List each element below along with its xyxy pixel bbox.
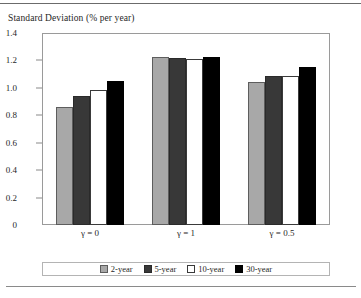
y-axis-tick-label: 0 — [0, 220, 17, 230]
y-axis-tick-mark — [36, 60, 42, 61]
legend-swatch-icon — [144, 265, 152, 273]
y-axis-tick-mark — [36, 115, 42, 116]
bar-30-year-γ=0[interactable] — [107, 81, 124, 225]
bar-10-year-γ=1[interactable] — [186, 59, 203, 225]
x-axis-category-label: γ = 0 — [42, 228, 138, 246]
bar-5-year-γ=0[interactable] — [73, 96, 90, 225]
bar-10-year-γ=0.5[interactable] — [282, 76, 299, 225]
legend-item-30-year[interactable]: 30-year — [235, 264, 272, 274]
legend-item-2-year[interactable]: 2-year — [100, 264, 133, 274]
x-axis-category-label: γ = 1 — [138, 228, 234, 246]
y-axis-tick-label: 0.2 — [0, 193, 17, 203]
bar-10-year-γ=0[interactable] — [90, 90, 107, 225]
y-axis-tick-label: 1.4 — [0, 28, 17, 38]
page-rule-bottom — [6, 286, 356, 287]
bar-5-year-γ=0.5[interactable] — [265, 76, 282, 225]
bar-group — [234, 33, 330, 225]
y-axis-tick-mark — [36, 170, 42, 171]
legend-item-10-year[interactable]: 10-year — [187, 264, 224, 274]
bar-2-year-γ=0[interactable] — [56, 107, 73, 225]
legend-item-5-year[interactable]: 5-year — [144, 264, 177, 274]
bar-2-year-γ=1[interactable] — [152, 57, 169, 225]
bar-groups — [42, 33, 330, 225]
chart-title: Standard Deviation (% per year) — [8, 13, 135, 23]
legend-label: 5-year — [155, 264, 177, 274]
legend-swatch-icon — [187, 265, 195, 273]
plot-area — [42, 33, 330, 225]
legend-label: 30-year — [246, 264, 272, 274]
legend-swatch-icon — [100, 265, 108, 273]
y-axis-tick-mark — [36, 142, 42, 143]
y-axis-tick-mark — [36, 87, 42, 88]
legend-label: 10-year — [198, 264, 224, 274]
y-axis-tick-mark — [36, 197, 42, 198]
bar-2-year-γ=0.5[interactable] — [248, 82, 265, 225]
bar-30-year-γ=1[interactable] — [203, 57, 220, 225]
y-axis-tick-label: 0.4 — [0, 165, 17, 175]
bar-group — [138, 33, 234, 225]
legend-swatch-icon — [235, 265, 243, 273]
y-axis-tick-label: 0.6 — [0, 138, 17, 148]
legend-label: 2-year — [111, 264, 133, 274]
y-axis-tick-label: 1.2 — [0, 55, 17, 65]
x-axis-category-label: γ = 0.5 — [234, 228, 330, 246]
y-axis-tick-label: 0.8 — [0, 110, 17, 120]
y-axis-tick-label: 1.0 — [0, 83, 17, 93]
bar-group — [42, 33, 138, 225]
chart-legend: 2-year5-year10-year30-year — [42, 262, 330, 276]
x-axis-labels: γ = 0γ = 1γ = 0.5 — [42, 228, 330, 246]
bar-30-year-γ=0.5[interactable] — [299, 67, 316, 225]
bar-5-year-γ=1[interactable] — [169, 58, 186, 225]
page-rule-top — [0, 3, 361, 4]
